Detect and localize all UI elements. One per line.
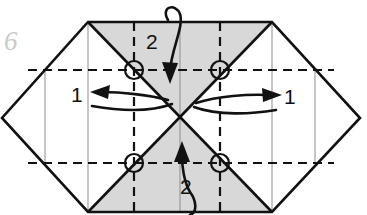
fold-arrow-right-tail bbox=[194, 107, 276, 113]
fold-arrow-right-shaft bbox=[196, 95, 268, 103]
fold-arrow-left-head bbox=[90, 85, 110, 99]
figure-number: 6 bbox=[4, 28, 18, 55]
fold-label-top: 2 bbox=[146, 31, 158, 52]
fold-label-right: 1 bbox=[284, 86, 296, 107]
fold-arrow-right bbox=[194, 88, 282, 113]
fold-label-left: 1 bbox=[71, 84, 83, 105]
origami-diagram-figure: 6 1 1 2 2 bbox=[0, 0, 367, 215]
fold-arrow-left-tail bbox=[92, 104, 172, 110]
fold-label-bottom: 2 bbox=[180, 176, 192, 197]
